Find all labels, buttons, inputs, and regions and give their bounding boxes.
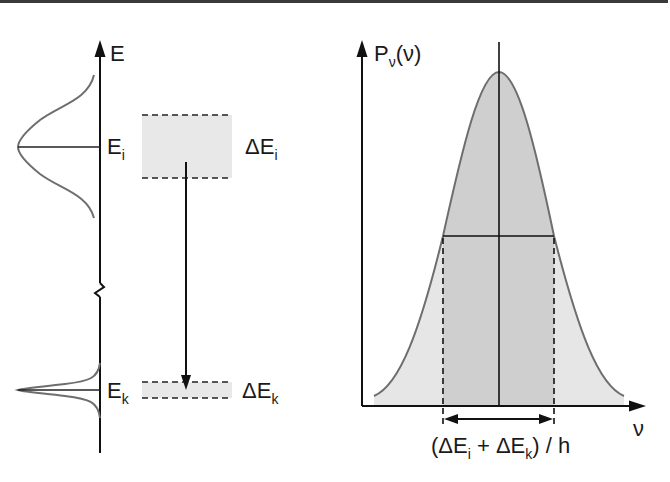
linewidth-formula-label: (ΔEi + ΔEk) / h [431, 435, 570, 457]
lower-level-width-label: ΔEk [242, 380, 278, 402]
arrow-up-icon [357, 40, 368, 57]
lower-level-profile [18, 363, 100, 418]
line-profile-plot [357, 40, 647, 425]
axis-break-icon [95, 283, 104, 297]
y-axis [357, 40, 368, 406]
y-axis-label: Pν(ν) [374, 43, 421, 65]
line-broadening-diagram: E Ei ΔEi Ek ΔEk Pν(ν) ν (ΔEi + ΔEk) / h [0, 0, 670, 482]
transition-arrow [181, 162, 191, 390]
energy-axis [95, 40, 106, 453]
arrow-up-icon [95, 40, 106, 57]
arrow-right-icon [629, 401, 646, 412]
arrow-right-icon [539, 414, 553, 424]
lower-level-label: Ek [107, 380, 129, 402]
energy-axis-label: E [110, 43, 125, 65]
width-double-arrow [444, 414, 553, 424]
upper-level-label: Ei [107, 136, 125, 158]
upper-level-profile [18, 75, 100, 218]
x-axis-label: ν [633, 418, 644, 440]
upper-level-width-label: ΔEi [245, 136, 278, 158]
arrow-left-icon [444, 414, 458, 424]
